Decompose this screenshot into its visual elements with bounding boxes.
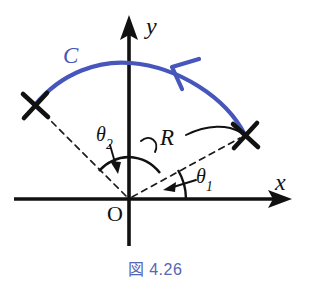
curve-c-group: [35, 59, 245, 135]
origin-label: O: [107, 203, 123, 225]
endpoint-right-cross-icon: [233, 123, 258, 148]
radius-label: R: [160, 126, 174, 149]
endpoint-markers: [23, 93, 258, 148]
diagram-canvas: [0, 0, 310, 292]
theta2-label: θ2: [96, 124, 113, 149]
theta1-arrowhead: [163, 182, 176, 192]
y-axis-label: y: [146, 14, 157, 38]
curve-label: C: [63, 44, 78, 67]
theta2-subscript: 2: [106, 137, 113, 152]
radius-leader-line: [141, 138, 156, 152]
theta1-label: θ1: [196, 166, 213, 191]
theta2-base: θ: [96, 123, 106, 145]
endpoint-left-cross-icon: [23, 93, 48, 118]
figure-container: y x O C R θ1 θ2 図 4.26: [0, 0, 310, 292]
theta2-arrowhead: [110, 161, 121, 174]
theta1-base: θ: [196, 165, 206, 187]
radius-leader-arc: [186, 127, 240, 135]
theta2-arc-lower: [129, 157, 160, 173]
radius-leader-group: [141, 127, 240, 152]
curve-c-path: [35, 63, 245, 135]
theta1-subscript: 1: [206, 179, 213, 194]
figure-caption: 図 4.26: [0, 256, 310, 280]
x-axis-label: x: [275, 170, 286, 194]
